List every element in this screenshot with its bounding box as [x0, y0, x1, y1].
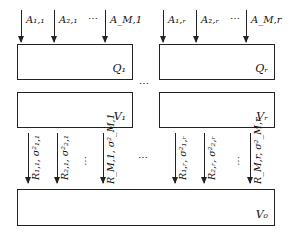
output-ellipsis-left: ⋯ [80, 156, 91, 166]
output-label-r1r: R₁,ᵣ, σ²₁,ᵣ [177, 136, 188, 180]
input-label-amr: A_M,r [251, 14, 281, 25]
input-ellipsis-right: ⋯ [230, 13, 241, 24]
input-label-a1r: A₁,ᵣ [168, 14, 186, 25]
output-arrow-rm1 [103, 133, 104, 183]
output-label-r2r: R₂,ᵣ, σ²₂,ᵣ [206, 136, 217, 180]
q1-box: Q₁ [17, 44, 133, 80]
output-ellipsis-right: ⋯ [233, 156, 244, 166]
output-arrow-r2r [204, 133, 205, 183]
output-label-rmr: R_M,r, σ²_M,r [252, 117, 263, 184]
input-label-a11: A₁,₁ [26, 14, 44, 25]
input-label-a21: A₂,₁ [59, 14, 77, 25]
v0-box: V₀ [17, 189, 275, 226]
v0-label: V₀ [256, 208, 268, 221]
input-arrow-amr [246, 10, 247, 42]
output-arrow-r1r [175, 133, 176, 183]
input-arrow-a21 [54, 10, 55, 42]
input-label-am1: A_M,1 [110, 14, 142, 25]
input-arrow-am1 [105, 10, 106, 42]
input-arrow-a1r [163, 10, 164, 42]
input-label-a2r: A₂,ᵣ [201, 14, 219, 25]
output-label-r21: R₂,₁, σ²₂,₁ [59, 135, 70, 180]
outputs-middle-ellipsis: ⋯ [138, 152, 149, 163]
output-label-rm1: R_M,1, σ²_M,1 [105, 113, 116, 184]
middle-ellipsis: ⋯ [139, 78, 150, 89]
output-arrow-r21 [57, 133, 58, 183]
qr-label: Qᵣ [255, 62, 268, 75]
input-arrow-a2r [196, 10, 197, 42]
q1-label: Q₁ [113, 62, 126, 75]
input-ellipsis-left: ⋯ [88, 13, 99, 24]
output-arrow-rmr [250, 133, 251, 183]
input-arrow-a11 [21, 10, 22, 42]
output-label-r11: R₁,₁, σ²₁,₁ [30, 135, 41, 180]
qr-box: Qᵣ [159, 44, 275, 80]
output-arrow-r11 [28, 133, 29, 183]
